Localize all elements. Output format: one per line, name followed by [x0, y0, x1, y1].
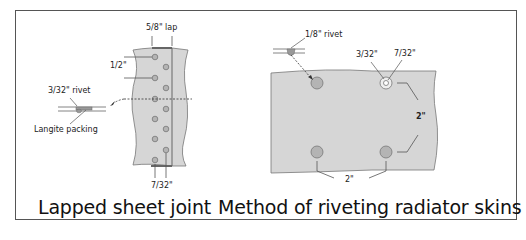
lap-width-label: 5/8" lap [146, 23, 177, 32]
section-rivet-label: 3/32" rivet [48, 86, 91, 95]
lapped-sheet [132, 48, 188, 166]
lap-dimension [152, 36, 172, 46]
hole-inner-label: 3/32" [356, 50, 378, 59]
radiator-skins-caption: Method of riveting radiator skins [218, 196, 521, 218]
vertical-spacing-label: 2" [416, 112, 426, 121]
section-detail [58, 98, 106, 124]
horizontal-spacing-label: 2" [345, 175, 354, 184]
lapped-sheet-joint-caption: Lapped sheet joint [38, 196, 211, 218]
langite-packing-label: Langite packing [34, 125, 98, 134]
edge-distance-label: 7/32" [151, 181, 173, 190]
radiator-skin-sheet [271, 70, 438, 173]
skin-rivet-label: 1/8" rivet [305, 30, 342, 39]
hole-outer-label: 7/32" [394, 49, 416, 58]
rivet-pitch-label: 1/2" [110, 61, 127, 70]
